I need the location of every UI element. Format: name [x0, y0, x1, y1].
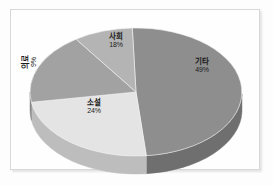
pie-slice-label-3: 의료 9% [22, 42, 38, 82]
pie-slice-label-0: 기타 49% [182, 58, 222, 74]
pie-slice-category-0: 기타 [182, 58, 222, 66]
pie-slice-percent-2: 18% [96, 41, 136, 49]
pie-chart-svg [0, 0, 273, 185]
pie-slice-category-2: 사회 [96, 33, 136, 41]
chart-image: 기타 49% 소설 24% 사회 18% 의료 9% [0, 0, 273, 185]
pie-slice-percent-3: 9% [30, 42, 38, 82]
pie-slice-category-1: 소설 [74, 99, 114, 107]
pie-slice-percent-1: 24% [74, 107, 114, 115]
pie-slice-category-3: 의료 [22, 42, 30, 82]
pie-slice-label-1: 소설 24% [74, 99, 114, 115]
pie-chart: 기타 49% 소설 24% 사회 18% 의료 9% [0, 0, 273, 185]
pie-slice-percent-0: 49% [182, 66, 222, 74]
pie-slice-label-2: 사회 18% [96, 33, 136, 49]
